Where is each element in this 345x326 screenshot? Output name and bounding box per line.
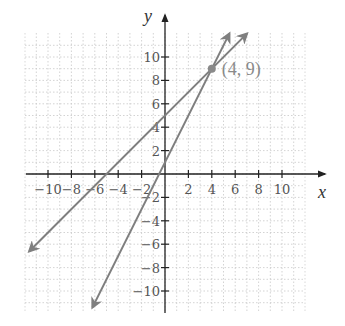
y-tick-label: −6 [141, 237, 160, 252]
y-tick-label: −10 [133, 284, 160, 299]
intersection-label: (4, 9) [222, 59, 261, 80]
x-tick-label: −4 [109, 182, 128, 197]
x-tick-label: 4 [208, 182, 216, 197]
coordinate-plane: −10−8−6−4−2246810−10−8−6−4−2246810 (4, 9… [0, 0, 345, 326]
y-tick-label: 10 [143, 50, 160, 65]
x-tick-label: −8 [62, 182, 81, 197]
y-tick-label: −8 [141, 261, 160, 276]
x-tick-label: 6 [231, 182, 239, 197]
x-tick-label: 10 [274, 182, 291, 197]
x-axis-label: x [317, 182, 326, 202]
x-tick-label: −10 [34, 182, 61, 197]
intersection-point [208, 65, 216, 73]
y-tick-label: 2 [152, 144, 160, 159]
x-tick-label: 8 [254, 182, 262, 197]
line-series [92, 34, 229, 308]
y-tick-label: 6 [152, 97, 160, 112]
plot-lines [29, 34, 247, 308]
x-tick-label: 2 [184, 182, 192, 197]
y-tick-label: 8 [152, 73, 160, 88]
axes [26, 15, 325, 313]
x-tick-label: −6 [85, 182, 104, 197]
y-axis-label: y [142, 6, 152, 26]
y-tick-label: −4 [141, 214, 160, 229]
